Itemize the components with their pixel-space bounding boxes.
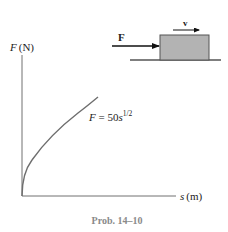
figure: F v F(N) s(m) F = 50s1/2 Prob. 14–10: [0, 0, 228, 232]
x-axis-label: s(m): [180, 190, 203, 203]
figure-caption: Prob. 14–10: [92, 215, 143, 226]
block: [160, 35, 209, 60]
equation-annotation: F = 50s1/2: [88, 109, 133, 123]
force-label: F: [118, 31, 125, 43]
velocity-label: v: [183, 18, 188, 28]
y-axis-label: F(N): [9, 41, 34, 54]
block-diagram: [112, 30, 221, 60]
curve-f-50-sqrt-s: [22, 97, 98, 196]
